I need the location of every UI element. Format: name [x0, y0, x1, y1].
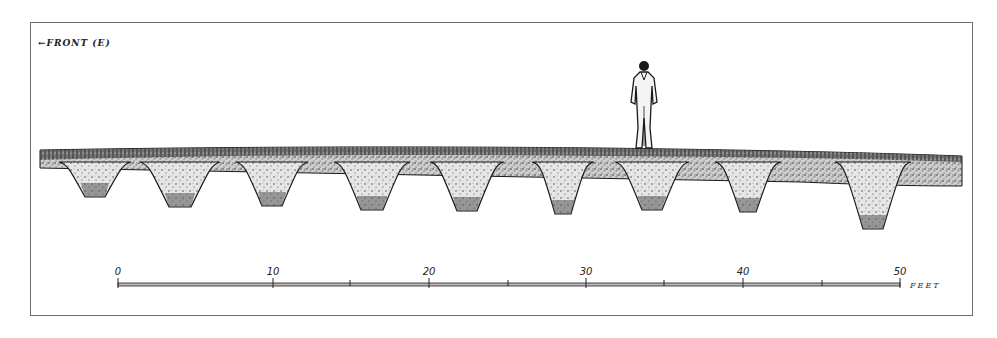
pit-core — [638, 196, 666, 210]
scale-tick-label: 30 — [580, 266, 593, 277]
pit-core — [81, 183, 109, 197]
scale-unit-label: FEET — [910, 281, 941, 290]
scale-tick-label: 20 — [423, 266, 436, 277]
pit-core — [453, 197, 481, 211]
scale-tick-label: 50 — [894, 266, 907, 277]
pit-core — [165, 193, 195, 207]
cross-section-drawing — [0, 0, 997, 338]
human-figure — [631, 61, 657, 148]
pit-core — [859, 215, 887, 229]
pit-core — [551, 200, 575, 214]
pit-core — [258, 192, 286, 206]
pit-core — [357, 196, 387, 210]
scale-tick-label: 0 — [115, 266, 121, 277]
pit-core — [736, 198, 760, 212]
scale-tick-label: 40 — [737, 266, 750, 277]
scale-tick-label: 10 — [267, 266, 280, 277]
scale-bar — [118, 278, 900, 288]
